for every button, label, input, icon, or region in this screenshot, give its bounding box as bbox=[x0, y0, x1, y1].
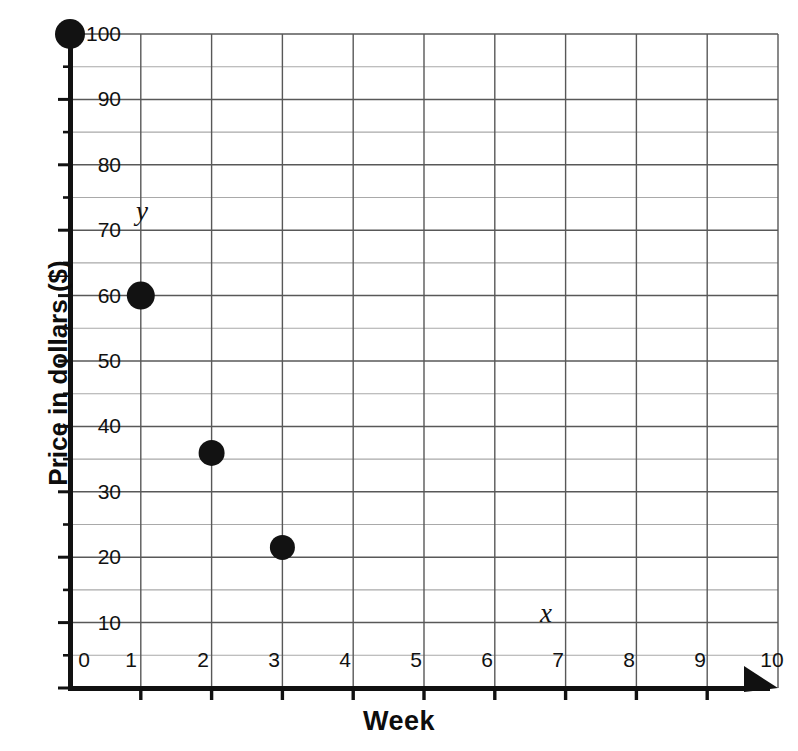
y-tick-label-30: 30 bbox=[66, 480, 121, 504]
y-tick-label-80: 80 bbox=[66, 153, 121, 177]
y-variable-annotation: y bbox=[136, 196, 148, 227]
x-tick-label-0: 0 bbox=[78, 648, 90, 672]
x-tick-label-8: 8 bbox=[623, 648, 635, 672]
x-tick-label-7: 7 bbox=[552, 648, 564, 672]
x-tick-label-3: 3 bbox=[268, 648, 280, 672]
price-per-week-scatter-chart: 100 90 80 70 60 50 40 30 20 10 0 1 2 3 4… bbox=[0, 0, 798, 751]
data-point bbox=[127, 282, 155, 310]
y-tick-label-70: 70 bbox=[66, 218, 121, 242]
plot-area-svg bbox=[0, 0, 798, 751]
y-tick-label-50: 50 bbox=[66, 349, 121, 373]
x-tick-label-4: 4 bbox=[339, 648, 351, 672]
x-tick-label-2: 2 bbox=[197, 648, 209, 672]
y-tick-label-60: 60 bbox=[66, 284, 121, 308]
x-tick-label-5: 5 bbox=[410, 648, 422, 672]
x-variable-annotation: x bbox=[540, 598, 552, 629]
x-tick-label-9: 9 bbox=[694, 648, 706, 672]
y-tick-label-40: 40 bbox=[66, 414, 121, 438]
y-tick-label-100: 100 bbox=[66, 22, 121, 46]
data-point bbox=[199, 440, 225, 466]
x-tick-label-6: 6 bbox=[481, 648, 493, 672]
data-point bbox=[270, 535, 295, 560]
x-tick-label-10: 10 bbox=[760, 648, 783, 672]
y-tick-label-90: 90 bbox=[66, 87, 121, 111]
y-tick-label-10: 10 bbox=[66, 611, 121, 635]
x-tick-label-1: 1 bbox=[125, 648, 137, 672]
x-axis-title: Week bbox=[0, 706, 798, 737]
y-tick-label-20: 20 bbox=[66, 545, 121, 569]
